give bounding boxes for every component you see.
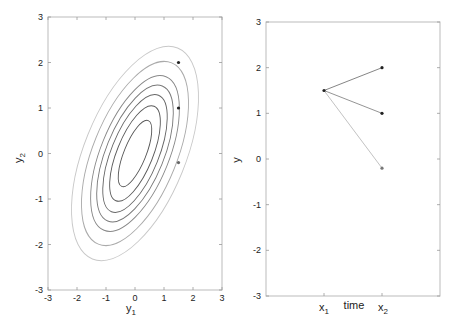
right-x-axis-label: time	[344, 299, 365, 311]
sample-line	[324, 68, 382, 91]
sample-point	[177, 106, 180, 109]
end-point	[380, 112, 383, 115]
y-tick-label: -1	[253, 200, 261, 210]
contour-lines	[45, 29, 224, 278]
x2-tick-label: x2	[378, 301, 389, 316]
x1-tick-label: x1	[319, 301, 330, 316]
right-y-ticks: 3210-1-2-3	[253, 17, 440, 301]
contour-ellipse	[111, 116, 158, 190]
figure: 3210-1-2-3 -3-2-10123 y1 y2 3210-1-2-3 x…	[0, 0, 455, 328]
contour-ellipse	[89, 86, 180, 220]
y-tick-label: -3	[35, 285, 43, 295]
y-tick-label: 2	[256, 63, 261, 73]
x-tick-label: -1	[102, 293, 110, 303]
left-contour-plot: 3210-1-2-3 -3-2-10123 y1 y2	[12, 12, 225, 317]
x-tick-label: 1	[161, 293, 166, 303]
y-tick-label: -2	[253, 245, 261, 255]
left-y-axis-label: y2	[12, 152, 27, 163]
end-point	[380, 167, 383, 170]
left-axes-frame	[48, 17, 222, 290]
right-axes-frame	[266, 22, 440, 296]
y-tick-label: 3	[38, 12, 43, 22]
end-point	[380, 66, 383, 69]
sample-point	[177, 61, 180, 64]
x-tick-label: 3	[219, 293, 224, 303]
y-tick-label: 0	[256, 154, 261, 164]
y-tick-label: 0	[38, 149, 43, 159]
left-y-ticks: 3210-1-2-3	[35, 12, 222, 295]
contour-ellipse	[59, 47, 210, 260]
x-tick-label: 0	[132, 293, 137, 303]
contour-ellipse	[81, 75, 189, 232]
y-tick-label: 1	[256, 108, 261, 118]
y-tick-label: 2	[38, 58, 43, 68]
sample-lines	[322, 66, 383, 170]
x-tick-label: -3	[44, 293, 52, 303]
y-tick-label: 3	[256, 17, 261, 27]
left-x-axis-label: y1	[126, 302, 137, 317]
right-y-axis-label: y	[230, 157, 242, 163]
y-tick-label: -3	[253, 291, 261, 301]
y-tick-label: -1	[35, 194, 43, 204]
contour-ellipse	[45, 29, 224, 278]
contour-ellipse	[72, 64, 197, 243]
x-tick-label: -2	[73, 293, 81, 303]
sample-point	[177, 161, 180, 164]
y-tick-label: -2	[35, 240, 43, 250]
start-point	[322, 89, 325, 92]
x-tick-label: 2	[190, 293, 195, 303]
right-line-plot: 3210-1-2-3 x1 time x2 y	[230, 17, 440, 316]
left-x-ticks: -3-2-10123	[44, 17, 225, 303]
y-tick-label: 1	[38, 103, 43, 113]
